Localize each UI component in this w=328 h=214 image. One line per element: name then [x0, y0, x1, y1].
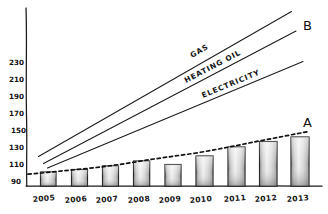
gas-line — [39, 12, 292, 157]
x-tick-2007: 2007 — [95, 194, 118, 205]
bar-2005 — [41, 172, 57, 186]
group-label-a: A — [303, 115, 312, 130]
hand-drawn-chart: 230 210 190 170 150 130 110 90 — [0, 0, 328, 214]
x-tick-2008: 2008 — [127, 194, 150, 205]
x-tick-2011: 2011 — [223, 193, 246, 204]
y-tick-labels: 230 210 190 170 150 130 110 90 — [9, 58, 26, 186]
y-tick-190: 190 — [9, 92, 24, 101]
bar-2012 — [260, 142, 278, 187]
bar-2007 — [103, 166, 119, 186]
x-tick-2006: 2006 — [64, 194, 87, 205]
y-tick-90: 90 — [11, 177, 21, 186]
group-labels: B A — [303, 18, 312, 130]
bar-2011 — [228, 147, 245, 186]
bar-2010 — [196, 156, 213, 186]
gas-label: GAS — [189, 42, 211, 60]
y-tick-210: 210 — [9, 75, 24, 84]
bar-2009 — [165, 165, 181, 187]
x-tick-2009: 2009 — [158, 194, 181, 205]
x-tick-2010: 2010 — [189, 194, 212, 205]
y-tick-150: 150 — [11, 126, 26, 135]
heating-oil-line — [44, 31, 297, 164]
y-tick-130: 130 — [9, 143, 24, 152]
bar-2006 — [72, 170, 88, 187]
group-label-b: B — [303, 18, 312, 33]
y-axis-line — [26, 8, 27, 186]
x-tick-2005: 2005 — [32, 193, 55, 204]
x-tick-2012: 2012 — [254, 193, 277, 204]
bar-2008 — [134, 161, 150, 186]
chart-canvas: 230 210 190 170 150 130 110 90 — [0, 0, 328, 214]
y-tick-110: 110 — [9, 160, 24, 169]
y-tick-170: 170 — [9, 109, 24, 118]
bar-2013 — [291, 137, 309, 186]
y-tick-230: 230 — [9, 58, 24, 67]
x-tick-labels: 2005 2006 2007 2008 2009 2010 2011 2012 … — [32, 193, 309, 205]
x-tick-2013: 2013 — [286, 193, 309, 204]
axis-group — [26, 8, 322, 186]
